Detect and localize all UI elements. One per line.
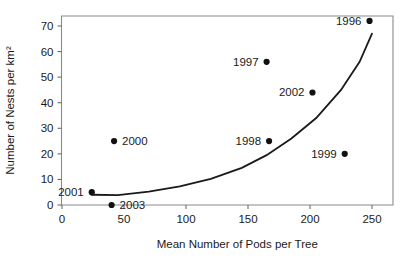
data-point-2003 (109, 202, 115, 208)
y-tick-label: 10 (41, 173, 54, 185)
x-tick-label: 200 (300, 213, 319, 225)
data-point-2001 (89, 189, 95, 195)
data-point-1996 (366, 18, 372, 24)
data-point-1997 (264, 59, 270, 65)
data-point-1998 (266, 138, 272, 144)
data-point-label-1999: 1999 (311, 148, 337, 160)
plot-frame (62, 16, 394, 205)
x-tick-label: 150 (238, 213, 257, 225)
y-axis-tick-labels: 010203040506070 (41, 20, 54, 211)
y-axis-title: Number of Nests per km² (4, 46, 16, 175)
data-point-label-2000: 2000 (122, 135, 148, 147)
x-tick-label: 0 (59, 213, 65, 225)
x-axis-tick-group (62, 205, 372, 209)
y-tick-label: 30 (41, 122, 54, 134)
data-point-label-group: 20012003200019971998200219991996 (58, 15, 361, 211)
data-point-2002 (309, 89, 315, 95)
data-point-label-1998: 1998 (235, 135, 261, 147)
data-point-2000 (111, 138, 117, 144)
data-point-label-2003: 2003 (120, 199, 146, 211)
y-tick-label: 50 (41, 71, 54, 83)
y-axis-tick-group (58, 26, 62, 205)
data-point-label-2001: 2001 (58, 186, 84, 198)
scatter-chart-figure: 050100150200250 010203040506070 20012003… (0, 0, 417, 268)
data-point-group (89, 18, 373, 208)
exponential-fit-curve (92, 34, 372, 195)
x-axis-tick-labels: 050100150200250 (59, 213, 382, 225)
data-point-label-1996: 1996 (336, 15, 362, 27)
y-tick-label: 40 (41, 97, 54, 109)
x-tick-label: 50 (118, 213, 131, 225)
y-tick-label: 0 (47, 199, 53, 211)
x-tick-label: 100 (176, 213, 195, 225)
plot-canvas: 050100150200250 010203040506070 20012003… (0, 0, 417, 268)
y-tick-label: 70 (41, 20, 54, 32)
plot-frame-border (62, 16, 394, 205)
data-point-label-1997: 1997 (233, 56, 259, 68)
x-tick-label: 250 (362, 213, 381, 225)
data-point-label-2002: 2002 (279, 86, 305, 98)
data-point-1999 (342, 151, 348, 157)
x-axis-title: Mean Number of Pods per Tree (157, 238, 318, 250)
y-tick-label: 20 (41, 148, 54, 160)
y-tick-label: 60 (41, 46, 54, 58)
